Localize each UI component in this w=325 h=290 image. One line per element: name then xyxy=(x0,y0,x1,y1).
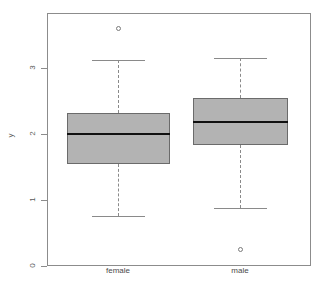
y-tick-mark-0 xyxy=(41,266,47,267)
whisker-lower-female xyxy=(118,164,119,216)
y-axis-label: y xyxy=(6,127,15,145)
whisker-lower-male xyxy=(240,145,241,208)
whisker-cap-lower-female xyxy=(92,216,145,217)
y-tick-label-0: 0 xyxy=(28,258,37,274)
x-tick-label-male: male xyxy=(195,266,285,275)
box-female xyxy=(67,113,170,164)
y-tick-mark-3 xyxy=(41,68,47,69)
median-line-female xyxy=(67,133,170,135)
x-tick-label-female: female xyxy=(73,266,163,275)
y-tick-label-2: 2 xyxy=(28,126,37,142)
whisker-cap-lower-male xyxy=(214,208,267,209)
y-tick-label-1: 1 xyxy=(28,192,37,208)
y-tick-label-3: 3 xyxy=(28,60,37,76)
whisker-upper-male xyxy=(240,58,241,98)
outlier-point-male xyxy=(238,247,243,252)
median-line-male xyxy=(193,121,288,123)
whisker-upper-female xyxy=(118,60,119,113)
boxplot-figure: y 0 1 2 3 female male xyxy=(0,0,325,290)
outlier-point-female xyxy=(116,26,121,31)
whisker-cap-upper-female xyxy=(92,60,145,61)
y-tick-mark-1 xyxy=(41,200,47,201)
whisker-cap-upper-male xyxy=(214,58,267,59)
y-tick-mark-2 xyxy=(41,134,47,135)
